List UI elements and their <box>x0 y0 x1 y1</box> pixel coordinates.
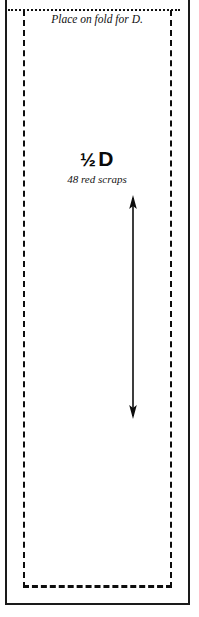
piece-name: ½D <box>23 148 171 169</box>
outer-frame-border <box>5 0 190 605</box>
fold-line <box>8 9 180 11</box>
fold-instruction-text: Place on fold for D. <box>23 13 171 25</box>
piece-label-block: ½D 48 red scraps <box>23 148 171 185</box>
cut-line-left <box>23 10 25 588</box>
grain-arrow-icon <box>119 193 147 421</box>
grain-direction-arrow <box>119 193 147 421</box>
piece-cutting-note: 48 red scraps <box>23 174 171 185</box>
cut-line-right <box>170 10 172 588</box>
piece-letter: D <box>98 147 114 170</box>
piece-fraction: ½ <box>80 149 96 170</box>
pattern-template-page: Place on fold for D. ½D 48 red scraps <box>0 0 199 617</box>
cut-line-bottom <box>23 585 172 588</box>
